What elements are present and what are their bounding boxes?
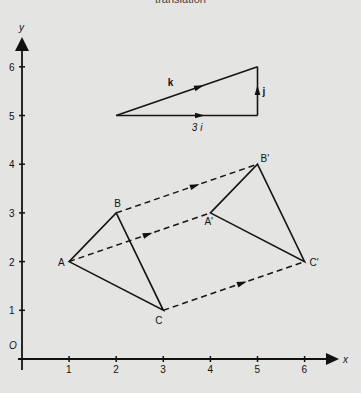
x-tick-label: 1 <box>66 364 72 375</box>
x-axis-label: x <box>342 354 349 365</box>
x-axis-arrow-icon <box>326 353 339 365</box>
x-tick-label: 3 <box>160 364 166 375</box>
translation-arrow-icon <box>142 233 152 239</box>
x-tick-label: 5 <box>255 364 261 375</box>
triangles <box>69 164 305 310</box>
triangle-a-prime-b-prime-c-prime <box>210 164 304 261</box>
x-tick-label: 6 <box>302 364 308 375</box>
vector-triangle: kj3 i <box>116 67 265 133</box>
vertex-label-c: C <box>155 315 162 326</box>
translation-line-c <box>163 262 304 311</box>
y-tick-label: 2 <box>9 257 15 268</box>
vector-3i-label: 3 i <box>192 122 203 133</box>
vertex-label-b-prime: B' <box>261 153 270 164</box>
y-axis-label: y <box>18 22 25 33</box>
y-axis-arrow-icon <box>15 37 29 51</box>
vector-j-label: j <box>262 86 266 97</box>
x-tick-label: 2 <box>113 364 119 375</box>
y-tick-label: 6 <box>9 62 15 73</box>
translation-arrow-icon <box>189 184 199 190</box>
y-tick-label: 4 <box>9 159 15 170</box>
translation-line-b <box>116 164 257 213</box>
vector-k-line <box>116 67 257 116</box>
origin-label: O <box>9 340 17 351</box>
vector-j-arrow-icon <box>255 85 261 95</box>
translation-line-a <box>69 213 210 262</box>
vector-k-arrow-icon <box>194 85 204 91</box>
labels: AA'BB'CC' <box>58 153 319 326</box>
vector-k-label: k <box>168 77 174 88</box>
vertex-label-b: B <box>114 198 121 209</box>
vertex-label-a-prime: A' <box>204 216 213 227</box>
translation-arrow-icon <box>236 282 246 288</box>
triangle-abc <box>69 213 163 310</box>
translation-lines <box>69 164 305 310</box>
vertex-label-a: A <box>58 257 65 268</box>
axes: xyO123456123456 <box>9 22 349 375</box>
x-tick-label: 4 <box>207 364 213 375</box>
y-tick-label: 1 <box>9 305 15 316</box>
y-tick-label: 5 <box>9 111 15 122</box>
vector-3i-arrow-icon <box>195 113 205 119</box>
y-tick-label: 3 <box>9 208 15 219</box>
vertex-label-c-prime: C' <box>310 257 319 268</box>
translation-diagram: xyO123456123456 kj3 i AA'BB'CC' <box>0 0 361 393</box>
